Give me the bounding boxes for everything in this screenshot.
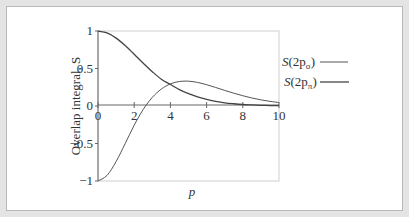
series-pi-line <box>98 31 279 106</box>
x-tick-label: 4 <box>167 108 174 123</box>
series-sigma-line <box>98 81 279 181</box>
overlap-integral-chart: 10.50−0.5−1 0246810 Overlap integral, S … <box>0 0 409 217</box>
y-tick-label: −1 <box>79 173 93 188</box>
x-tick-label: 8 <box>240 108 247 123</box>
y-tick-label: 1 <box>87 23 94 38</box>
x-axis-label: p <box>188 184 196 199</box>
y-tick-label: 0 <box>87 98 94 113</box>
plot-area-frame <box>98 31 279 181</box>
x-tick-label: 0 <box>95 108 102 123</box>
legend-label-pi: S(2pπ) <box>284 74 317 91</box>
legend-item-pi: S(2pπ) <box>284 74 349 91</box>
legend-label-sigma: S(2pσ) <box>282 54 315 71</box>
y-axis-label: Overlap integral, S <box>68 57 83 156</box>
legend-item-sigma: S(2pσ) <box>282 54 348 71</box>
x-tick-label: 6 <box>203 108 210 123</box>
x-tick-label: 10 <box>273 108 286 123</box>
legend: S(2pσ) S(2pπ) <box>282 54 349 91</box>
